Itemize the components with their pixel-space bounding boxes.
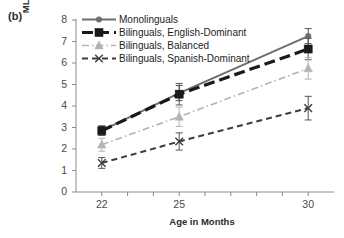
y-axis-ticklabel: 6 [45, 56, 67, 68]
series-line [102, 68, 308, 144]
data-point-marker [304, 45, 312, 53]
legend-key-swatch [82, 39, 116, 52]
x-axis-ticklabel: 22 [87, 198, 117, 210]
legend-item[interactable]: Monolinguals [82, 13, 250, 26]
y-axis-ticklabel: 5 [45, 78, 67, 90]
x-axis-ticklabel: 25 [164, 198, 194, 210]
legend-key-swatch [82, 52, 116, 65]
y-axis-ticklabel: 1 [45, 164, 67, 176]
legend-label: Bilinguals, English-Dominant [119, 27, 246, 38]
legend-key-swatch [82, 13, 116, 26]
chart-legend: MonolingualsBilinguals, English-Dominant… [82, 13, 250, 65]
series-bilinguals-balanced [98, 58, 313, 152]
y-axis-title-text: MLU of Longest English Utterances [20, 0, 31, 18]
figure-panel-b: (b) MLU of Longest English Utterances Ag… [0, 0, 344, 238]
legend-item[interactable]: Bilinguals, English-Dominant [82, 26, 250, 39]
legend-key-icon [82, 13, 116, 26]
series-bilinguals-spanish-dominant [98, 96, 312, 168]
legend-label: Monolinguals [119, 14, 178, 25]
y-axis-title: MLU of Longest English Utterances [20, 0, 34, 18]
y-axis-ticklabel: 7 [45, 35, 67, 47]
legend-item[interactable]: Bilinguals, Spanish-Dominant [82, 52, 250, 65]
legend-item[interactable]: Bilinguals, Balanced [82, 39, 250, 52]
data-point-marker [175, 112, 183, 120]
y-axis-ticklabel: 2 [45, 142, 67, 154]
y-axis-ticklabel: 4 [45, 99, 67, 111]
legend-key-icon [82, 26, 116, 39]
data-point-marker [98, 127, 106, 135]
y-axis-ticklabel: 0 [45, 185, 67, 197]
data-point-marker [95, 29, 103, 37]
y-axis-ticklabel: 3 [45, 121, 67, 133]
y-axis-ticklabel: 8 [45, 13, 67, 25]
data-point-marker [175, 90, 183, 98]
legend-key-swatch [82, 26, 116, 39]
legend-label: Bilinguals, Spanish-Dominant [119, 53, 250, 64]
legend-key-icon [82, 39, 116, 52]
legend-key-icon [82, 52, 116, 65]
data-point-marker [96, 17, 102, 23]
legend-label: Bilinguals, Balanced [119, 40, 209, 51]
data-point-marker [304, 64, 312, 72]
x-axis-ticklabel: 30 [293, 198, 323, 210]
x-axis-title: Age in Months [78, 216, 326, 227]
